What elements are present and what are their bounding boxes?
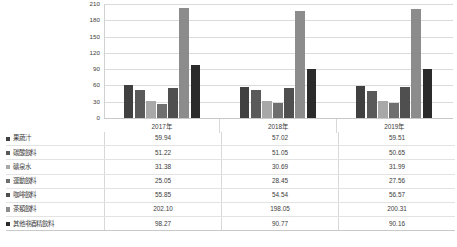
bar [191,65,201,118]
y-tick-label: 210 [70,1,100,7]
legend-swatch-icon [6,137,10,141]
legend-entry: 其他非酒精飲料 [6,221,104,227]
table-cell-value: 56.57 [339,188,456,202]
table-row: 咖啡飲料55.8554.5456.57 [6,188,455,202]
legend-label: 果蔬汁 [13,135,31,141]
table-row: 果蔬汁59.9457.0259.51 [6,132,455,146]
bar [400,87,410,118]
bar [135,90,145,118]
table-cell-value: 59.94 [105,132,222,146]
bar [307,69,317,118]
table-cell-value: 54.54 [222,188,339,202]
category-label: 2018年 [220,119,336,133]
legend-label: 運動飲料 [13,178,37,184]
legend-cell: 礦泉水 [6,160,105,174]
legend-entry: 咖啡飲料 [6,192,104,198]
legend-entry: 運動飲料 [6,178,104,184]
legend-cell: 碳酸飲料 [6,146,105,160]
bar-group [104,4,220,118]
table-row: 碳酸飲料51.2251.0550.65 [6,146,455,160]
bar [284,88,294,118]
y-tick-label: 120 [70,50,100,56]
bars-layer [104,4,452,118]
y-axis: 2101801501209060300 [70,4,100,118]
y-tick-label: 180 [70,17,100,23]
table-cell-value: 90.77 [222,217,339,231]
y-tick-label: 60 [70,82,100,88]
bar [378,101,388,118]
legend-cell: 果蔬汁 [6,132,105,146]
bar [273,103,283,118]
table-cell-value: 202.10 [105,202,222,216]
table-cell-value: 55.85 [105,188,222,202]
legend-swatch-icon [6,193,10,197]
bar [146,101,156,118]
bar [124,85,134,118]
legend-swatch-icon [6,165,10,169]
table-cell-value: 57.02 [222,132,339,146]
table-cell-value: 51.22 [105,146,222,160]
legend-label: 礦泉水 [13,164,31,170]
table-cell-value: 30.69 [222,160,339,174]
legend-swatch-icon [6,179,10,183]
legend-swatch-icon [6,222,10,226]
bar [389,103,399,118]
bar [251,90,261,118]
data-table-body: 果蔬汁59.9457.0259.51碳酸飲料51.2251.0550.65礦泉水… [6,132,455,231]
legend-entry: 果蔬汁 [6,135,104,141]
category-axis: 2017年2018年2019年 [104,118,452,133]
bar [411,9,421,118]
bar [356,86,366,118]
bar [262,101,272,118]
y-tick-label: 150 [70,33,100,39]
bar-chart-widget: 2101801501209060300 2017年2018年2019年 果蔬汁5… [0,0,457,247]
legend-entry: 碳酸飲料 [6,150,104,156]
table-cell-value: 90.16 [339,217,456,231]
y-tick-label: 90 [70,66,100,72]
table-cell-value: 28.45 [222,174,339,188]
bar [157,104,167,118]
legend-swatch-icon [6,151,10,155]
legend-entry: 茶類飲料 [6,206,104,212]
bar [168,88,178,118]
y-tick-label: 30 [70,99,100,105]
legend-swatch-icon [6,207,10,211]
data-table: 果蔬汁59.9457.0259.51碳酸飲料51.2251.0550.65礦泉水… [6,132,455,231]
table-cell-value: 25.05 [105,174,222,188]
legend-label: 茶類飲料 [13,206,37,212]
legend-cell: 咖啡飲料 [6,188,105,202]
bar-group [336,4,452,118]
y-tick-label: 0 [70,115,100,121]
table-cell-value: 198.05 [222,202,339,216]
legend-label: 咖啡飲料 [13,192,37,198]
plot-region: 2101801501209060300 [0,4,457,132]
legend-cell: 其他非酒精飲料 [6,217,105,231]
table-cell-value: 31.99 [339,160,456,174]
table-cell-value: 51.05 [222,146,339,160]
table-row: 運動飲料25.0528.4527.56 [6,174,455,188]
legend-entry: 礦泉水 [6,164,104,170]
table-row: 其他非酒精飲料98.2790.7790.16 [6,217,455,231]
table-cell-value: 200.31 [339,202,456,216]
legend-label: 其他非酒精飲料 [13,221,54,227]
category-label: 2019年 [337,119,452,133]
table-cell-value: 31.38 [105,160,222,174]
bar [423,69,433,118]
bar-group [220,4,336,118]
legend-cell: 茶類飲料 [6,202,105,216]
bar [179,8,189,118]
table-cell-value: 59.51 [339,132,456,146]
category-label: 2017年 [104,119,220,133]
table-row: 茶類飲料202.10198.05200.31 [6,202,455,216]
bar [295,11,305,119]
legend-cell: 運動飲料 [6,174,105,188]
table-cell-value: 50.65 [339,146,456,160]
table-cell-value: 27.56 [339,174,456,188]
bar [240,87,250,118]
legend-label: 碳酸飲料 [13,150,37,156]
table-cell-value: 98.27 [105,217,222,231]
table-row: 礦泉水31.3830.6931.99 [6,160,455,174]
bar [367,91,377,118]
